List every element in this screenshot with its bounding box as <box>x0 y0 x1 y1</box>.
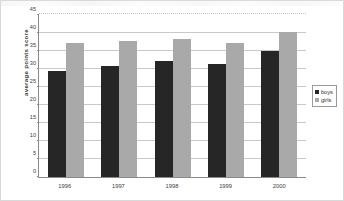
bar-boys-1998 <box>155 61 173 177</box>
bar-girls-1998 <box>173 39 191 177</box>
bar-group <box>199 15 252 177</box>
y-tick-label: 15 <box>30 114 36 120</box>
bar-group <box>146 15 199 177</box>
bar-girls-1996 <box>66 43 84 177</box>
legend-item-girls: girls <box>315 96 333 104</box>
y-tick-label: 25 <box>30 78 36 84</box>
bar-group <box>92 15 145 177</box>
x-tick-label: 1998 <box>145 183 199 189</box>
y-tick-label: 10 <box>30 132 36 138</box>
legend-swatch-icon <box>315 98 319 102</box>
y-tick-label: 40 <box>30 24 36 30</box>
scan-artifact <box>1 1 343 6</box>
y-tick-label: 30 <box>30 60 36 66</box>
x-tick-label: 1997 <box>92 183 146 189</box>
x-tick-label: 2000 <box>252 183 306 189</box>
y-tick-label: 20 <box>30 96 36 102</box>
bar-boys-2000 <box>261 51 279 177</box>
bar-boys-1996 <box>48 71 66 177</box>
x-axis-ticks: 19961997199819992000 <box>38 183 306 189</box>
bar-groups <box>39 15 306 177</box>
y-tick-label: 35 <box>30 42 36 48</box>
y-tick-label: 5 <box>33 150 36 156</box>
plot-area: 454035302520151050 <box>38 15 306 178</box>
bar-boys-1997 <box>101 66 119 177</box>
bar-girls-2000 <box>279 32 297 177</box>
y-axis-title: average points score <box>22 3 29 123</box>
bar-group <box>39 15 92 177</box>
y-tick-label: 0 <box>33 168 36 174</box>
bar-chart-figure: average points score 454035302520151050 … <box>0 0 344 201</box>
chart-legend: boysgirls <box>312 85 337 107</box>
y-tick-label: 45 <box>30 6 36 12</box>
legend-item-boys: boys <box>315 88 333 96</box>
bar-boys-1999 <box>208 64 226 177</box>
legend-label: boys <box>321 89 333 95</box>
bar-group <box>253 15 306 177</box>
x-tick-label: 1999 <box>199 183 253 189</box>
bar-girls-1999 <box>226 43 244 177</box>
legend-swatch-icon <box>315 90 319 94</box>
bar-girls-1997 <box>119 41 137 177</box>
legend-label: girls <box>321 97 331 103</box>
x-tick-label: 1996 <box>38 183 92 189</box>
